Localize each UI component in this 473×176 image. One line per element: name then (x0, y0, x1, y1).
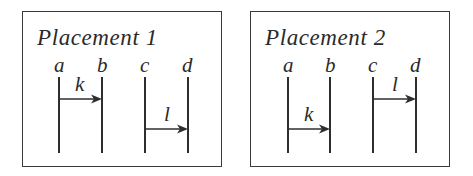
lifeline-d-label: d (182, 53, 193, 77)
lifeline-c-label: c (368, 53, 378, 77)
placement-2-panel: Placement 2 a b c d k l (250, 11, 450, 167)
arrow-l: l (145, 102, 188, 134)
lifeline-c-label: c (140, 53, 150, 77)
arrow-l-label: l (392, 72, 398, 96)
arrow-l-label: l (164, 102, 170, 126)
lifeline-d-label: d (410, 53, 421, 77)
placement-1-panel: Placement 1 a b c d k l (22, 11, 222, 167)
placement-2-diagram: Placement 2 a b c d k l (251, 12, 451, 168)
lifeline-b-label: b (97, 53, 108, 77)
arrow-k: k (59, 72, 102, 104)
lifeline-b-label: b (325, 53, 336, 77)
placement-2-title: Placement 2 (264, 25, 386, 50)
arrow-k: k (288, 102, 330, 134)
lifeline-a-label: a (54, 53, 65, 77)
arrow-k-label: k (304, 102, 314, 126)
placement-1-diagram: Placement 1 a b c d k l (23, 12, 223, 168)
arrow-k-label: k (75, 72, 85, 96)
lifeline-a-label: a (283, 53, 294, 77)
placement-1-title: Placement 1 (36, 25, 158, 50)
